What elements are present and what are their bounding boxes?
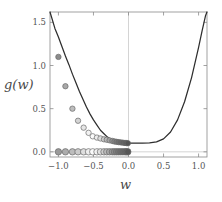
y-tick-label: 0.5 — [24, 104, 46, 114]
y-tick-label: 0.0 — [24, 147, 46, 157]
x-tick-label: −0.5 — [82, 161, 104, 171]
y-tick-label: 1.5 — [24, 17, 46, 27]
chart-figure: g(w) w −1.0−0.50.00.51.00.00.51.01.5 — [0, 0, 222, 202]
curve-step-markers — [56, 54, 131, 146]
x-tick-label: 0.0 — [118, 161, 140, 171]
x-tick-label: −1.0 — [47, 161, 69, 171]
x-axis-label: w — [120, 177, 131, 192]
x-tick-label: 1.0 — [188, 161, 210, 171]
chart-plot-area — [0, 0, 222, 202]
reference-lines — [50, 12, 207, 157]
x-tick-label: 0.5 — [153, 161, 175, 171]
y-tick-label: 1.0 — [24, 61, 46, 71]
w-axis-step-markers — [55, 149, 131, 155]
y-axis-label: g(w) — [4, 77, 34, 92]
